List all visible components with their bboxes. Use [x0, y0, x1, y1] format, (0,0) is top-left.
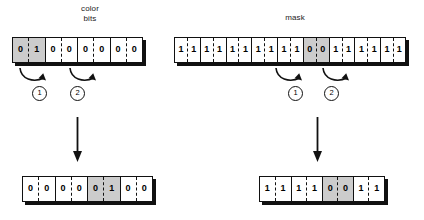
bit-cell: 0	[62, 38, 77, 62]
bit-cell: 0	[127, 38, 142, 62]
bit-cell: 1	[175, 38, 188, 62]
mask-result-word: 1 1 1 1 0 0 1 1	[259, 176, 385, 202]
bit-cell: 1	[354, 177, 370, 201]
bit-pair: 0 0	[121, 177, 153, 201]
mask-label: mask	[250, 13, 340, 23]
bit-cell: 0	[46, 38, 62, 62]
shift-marker-1: 1	[32, 86, 47, 101]
word-face: 1 1 1 1 1 1 1 1 1 1 0 0	[174, 37, 406, 63]
bit-cell: 1	[260, 177, 276, 201]
shift-arrow-2-icon	[66, 66, 176, 86]
bit-pair: 0 0	[323, 177, 354, 201]
down-arrow-icon	[311, 117, 324, 163]
bit-cell: 1	[104, 177, 119, 201]
shift-marker-1: 1	[288, 86, 303, 101]
bit-cell: 1	[368, 38, 380, 62]
bit-pair: 0 1	[13, 38, 46, 62]
bit-pair: 1 1	[354, 177, 385, 201]
bit-pair: 1 1	[292, 177, 324, 201]
bit-pair: 0 0	[23, 177, 56, 201]
bit-cell: 1	[381, 38, 393, 62]
bit-pair: 1 1	[227, 38, 253, 62]
bit-cell: 1	[227, 38, 240, 62]
bit-cell: 0	[317, 38, 329, 62]
bit-cell: 1	[394, 38, 405, 62]
bit-pair: 1 1	[252, 38, 278, 62]
bit-pair: 1 1	[330, 38, 356, 62]
word-face: 0 1 0 0 0 0 0 0	[12, 37, 143, 63]
bit-cell: 1	[343, 38, 355, 62]
bit-cell: 1	[214, 38, 226, 62]
bit-pair: 1 1	[175, 38, 201, 62]
bit-pair: 1 1	[381, 38, 405, 62]
bit-shift-diagram: color bits 0 1 0 0 0 0 0 0	[0, 0, 424, 220]
bit-cell: 1	[29, 38, 44, 62]
bit-cell: 0	[88, 177, 104, 201]
bit-pair: 1 1	[278, 38, 304, 62]
bit-cell: 0	[23, 177, 39, 201]
bit-cell: 1	[291, 38, 303, 62]
bit-pair: 1 1	[260, 177, 292, 201]
bit-cell: 0	[94, 38, 109, 62]
shift-arrow-2-icon	[319, 66, 424, 86]
bit-cell: 1	[201, 38, 214, 62]
bit-cell: 1	[252, 38, 265, 62]
bit-cell: 1	[292, 177, 308, 201]
bit-pair: 0 0	[56, 177, 89, 201]
color-bits-label: color bits	[48, 4, 132, 23]
shift-marker-2: 2	[70, 86, 85, 101]
bit-pair: 0 0	[304, 38, 330, 62]
down-arrow-icon	[71, 117, 84, 163]
shift-marker-2: 2	[324, 86, 339, 101]
bit-cell: 1	[307, 177, 322, 201]
color-bits-result-word: 0 0 0 0 0 1 0 0	[22, 176, 153, 202]
mask-source-word: 1 1 1 1 1 1 1 1 1 1 0 0	[174, 37, 406, 63]
color-bits-source-word: 0 1 0 0 0 0 0 0	[12, 37, 143, 63]
right-shift-arrows	[272, 66, 382, 86]
bit-cell: 1	[355, 38, 368, 62]
bit-cell: 0	[323, 177, 338, 201]
bit-cell: 0	[137, 177, 152, 201]
bit-cell: 1	[188, 38, 200, 62]
bit-pair: 0 0	[78, 38, 111, 62]
bit-cell: 1	[278, 38, 291, 62]
word-face: 0 0 0 0 0 1 0 0	[22, 176, 153, 202]
bit-cell: 0	[56, 177, 72, 201]
bit-pair: 0 0	[111, 38, 143, 62]
bit-pair: 1 1	[201, 38, 227, 62]
bit-cell: 1	[330, 38, 343, 62]
bit-cell: 0	[338, 177, 352, 201]
bit-cell: 0	[304, 38, 317, 62]
bit-cell: 0	[13, 38, 29, 62]
bit-pair: 0 0	[46, 38, 79, 62]
bit-cell: 0	[72, 177, 87, 201]
bit-cell: 0	[111, 38, 127, 62]
bit-pair: 1 1	[355, 38, 381, 62]
bit-cell: 1	[369, 177, 384, 201]
bit-cell: 0	[121, 177, 137, 201]
bit-cell: 1	[265, 38, 277, 62]
bit-cell: 0	[78, 38, 94, 62]
right-result-arrow	[311, 117, 324, 163]
bit-cell: 0	[39, 177, 54, 201]
word-face: 1 1 1 1 0 0 1 1	[259, 176, 385, 202]
bit-cell: 1	[276, 177, 291, 201]
left-result-arrow	[71, 117, 84, 163]
bit-cell: 1	[239, 38, 251, 62]
left-shift-arrows	[16, 66, 126, 86]
bit-pair: 0 1	[88, 177, 121, 201]
